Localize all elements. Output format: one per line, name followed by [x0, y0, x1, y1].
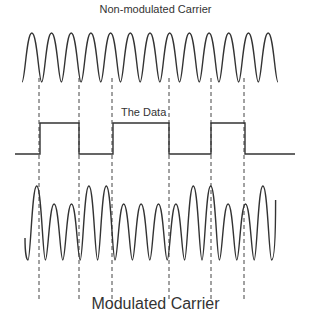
ask-modulation-diagram — [0, 0, 311, 330]
non-modulated-carrier-label: Non-modulated Carrier — [0, 3, 311, 15]
non-modulated-carrier-wave — [22, 33, 278, 82]
modulated-carrier-label: Modulated Carrier — [0, 295, 311, 313]
modulated-carrier-wave — [25, 186, 276, 260]
data-label: The Data — [121, 106, 166, 118]
data-square-wave — [15, 123, 295, 154]
